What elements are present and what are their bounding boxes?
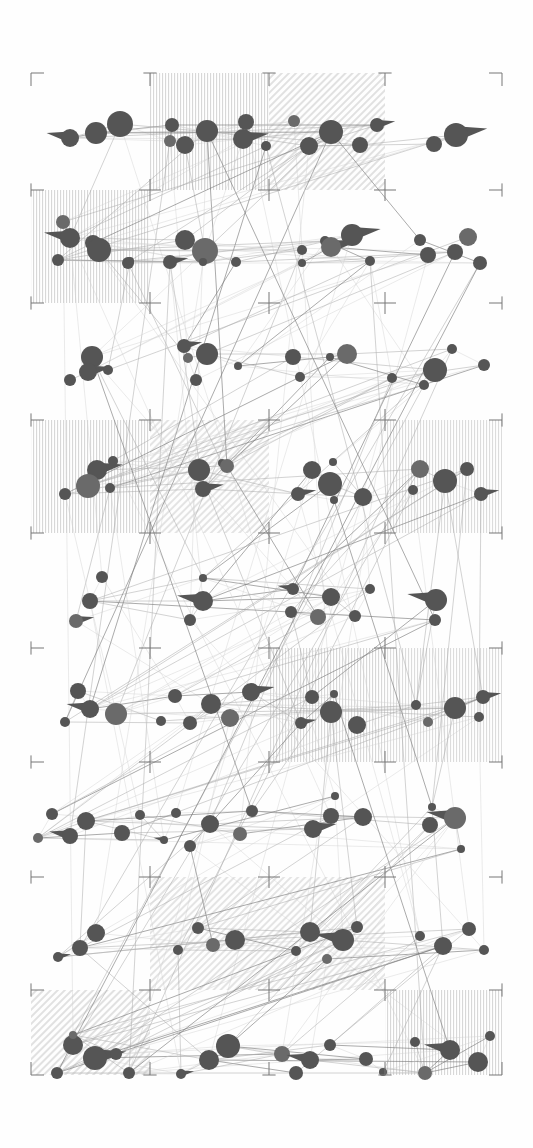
- node-circle: [274, 1046, 290, 1062]
- graph-node: [199, 258, 207, 266]
- node-circle: [411, 460, 429, 478]
- node-circle: [81, 700, 99, 718]
- node-circle: [354, 488, 372, 506]
- node-circle: [444, 807, 466, 829]
- graph-node: [320, 701, 342, 723]
- node-circle: [426, 136, 442, 152]
- graph-node: [173, 945, 183, 955]
- node-circle: [387, 373, 397, 383]
- graph-node: [300, 922, 320, 942]
- node-circle: [87, 238, 111, 262]
- node-circle: [370, 118, 384, 132]
- graph-node: [199, 574, 207, 582]
- node-circle: [337, 344, 357, 364]
- node-circle: [177, 339, 191, 353]
- node-circle: [287, 583, 299, 595]
- graph-node: [419, 380, 429, 390]
- graph-node: [305, 690, 319, 704]
- node-circle: [69, 614, 83, 628]
- graph-node: [423, 358, 447, 382]
- node-circle: [440, 1040, 460, 1060]
- graph-node: [326, 353, 334, 361]
- graph-node: [70, 683, 86, 699]
- node-circle: [285, 606, 297, 618]
- node-circle: [62, 828, 78, 844]
- node-circle: [59, 488, 71, 500]
- node-circle: [201, 694, 221, 714]
- node-circle: [234, 362, 242, 370]
- graph-node: [387, 373, 397, 383]
- graph-node: [414, 234, 426, 246]
- node-circle: [196, 343, 218, 365]
- graph-node: [168, 689, 182, 703]
- graph-node: [233, 827, 247, 841]
- node-circle: [332, 929, 354, 951]
- node-circle: [462, 922, 476, 936]
- block-r7-c1: [150, 877, 269, 990]
- node-circle: [289, 1066, 303, 1080]
- node-circle: [359, 1052, 373, 1066]
- node-circle: [320, 701, 342, 723]
- graph-node: [323, 808, 339, 824]
- graph-node: [110, 1048, 122, 1060]
- node-circle: [303, 461, 321, 479]
- node-circle: [201, 815, 219, 833]
- node-circle: [246, 805, 258, 817]
- node-circle: [51, 1067, 63, 1079]
- node-circle: [301, 1051, 319, 1069]
- node-circle: [69, 1031, 77, 1039]
- graph-node: [428, 803, 436, 811]
- node-circle: [33, 833, 43, 843]
- node-circle: [348, 716, 366, 734]
- graph-node: [114, 825, 130, 841]
- node-circle: [434, 937, 452, 955]
- node-circle: [444, 697, 466, 719]
- node-circle: [341, 224, 363, 246]
- graph-node: [201, 815, 219, 833]
- node-circle: [349, 610, 361, 622]
- graph-node: [354, 488, 372, 506]
- node-circle: [459, 228, 477, 246]
- graph-node: [59, 488, 71, 500]
- graph-node: [351, 921, 363, 933]
- graph-node: [479, 945, 489, 955]
- node-circle: [216, 1034, 240, 1058]
- node-circle: [126, 257, 134, 265]
- node-circle: [108, 456, 118, 466]
- graph-node: [297, 245, 307, 255]
- node-circle: [419, 380, 429, 390]
- graph-node: [485, 1031, 495, 1041]
- graph-node: [298, 259, 306, 267]
- node-circle: [56, 215, 70, 229]
- graph-node: [433, 469, 457, 493]
- graph-node: [411, 460, 429, 478]
- node-circle: [83, 1046, 107, 1070]
- node-circle: [304, 820, 322, 838]
- node-circle: [300, 137, 318, 155]
- graph-node: [408, 485, 418, 495]
- node-circle: [176, 136, 194, 154]
- graph-node: [410, 1037, 420, 1047]
- graph-node: [420, 247, 436, 263]
- graph-node: [359, 1052, 373, 1066]
- graph-node: [415, 931, 425, 941]
- graph-node: [274, 1046, 290, 1062]
- node-circle: [87, 924, 105, 942]
- node-circle: [352, 137, 368, 153]
- node-circle: [324, 1039, 336, 1051]
- node-circle: [60, 228, 80, 248]
- graph-node: [220, 459, 234, 473]
- graph-node: [69, 1031, 77, 1039]
- graph-node: [434, 937, 452, 955]
- node-circle: [156, 716, 166, 726]
- graph-node: [176, 136, 194, 154]
- graph-node: [324, 1039, 336, 1051]
- node-circle: [199, 1050, 219, 1070]
- node-circle: [199, 574, 207, 582]
- graph-node: [365, 256, 375, 266]
- node-circle: [423, 358, 447, 382]
- graph-node: [234, 362, 242, 370]
- graph-node: [330, 496, 338, 504]
- graph-node: [418, 1066, 432, 1080]
- node-circle: [192, 922, 204, 934]
